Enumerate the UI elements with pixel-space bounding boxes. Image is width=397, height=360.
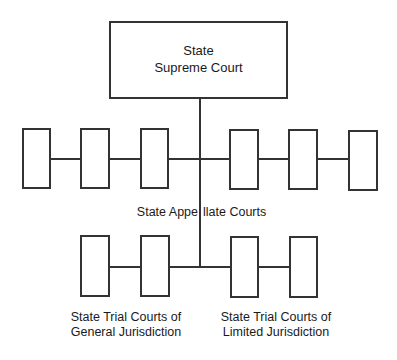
- trial-general-box-2: [140, 235, 170, 297]
- trunk-connector: [199, 98, 201, 268]
- appellate-court-box-5: [288, 129, 318, 190]
- trial-general-label-line1: State Trial Courts of: [62, 310, 190, 325]
- appellate-court-box-4: [229, 129, 259, 190]
- trial-limited-label: State Trial Courts of Limited Jurisdicti…: [212, 310, 340, 340]
- appellate-courts-label-right: llate Courts: [203, 205, 283, 220]
- trial-limited-box-1: [230, 236, 259, 298]
- trial-limited-label-line1: State Trial Courts of: [212, 310, 340, 325]
- trial-limited-label-line2: Limited Jurisdiction: [212, 325, 340, 340]
- supreme-court-label-line2: Supreme Court: [109, 59, 288, 76]
- trial-connector: [109, 266, 289, 268]
- supreme-court-label-line1: State: [109, 42, 288, 59]
- trial-general-box-1: [80, 235, 110, 297]
- appellate-court-box-2: [80, 128, 110, 189]
- appellate-court-box-1: [22, 128, 51, 189]
- supreme-court-label: State Supreme Court: [109, 42, 288, 76]
- appellate-court-box-3: [140, 128, 169, 189]
- appellate-courts-label-left: State Appe: [134, 205, 198, 220]
- trial-limited-box-2: [289, 236, 318, 298]
- trial-general-label-line2: General Jurisdiction: [62, 325, 190, 340]
- trial-general-label: State Trial Courts of General Jurisdicti…: [62, 310, 190, 340]
- appellate-court-box-6: [348, 130, 378, 191]
